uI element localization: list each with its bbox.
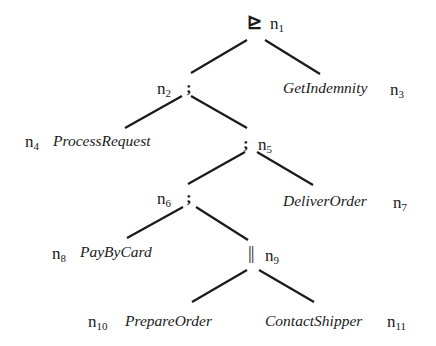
- tree-edges: [0, 0, 436, 346]
- edge-n1-n2: [191, 40, 247, 73]
- node-id-prefix: n: [52, 244, 61, 263]
- node-id-prefix: n: [387, 312, 396, 331]
- node-id-prefix: n: [258, 135, 267, 154]
- node-id-index: 7: [402, 201, 408, 213]
- node-id-index: 3: [399, 88, 405, 100]
- node-id-prefix: n: [25, 132, 34, 151]
- edge-n2-n4: [125, 96, 182, 128]
- activity-n10-prepare-order: PrepareOrder: [125, 313, 212, 329]
- node-id-prefix: n: [88, 312, 97, 331]
- activity-n4-process-request: ProcessRequest: [53, 133, 151, 149]
- node-id-index: 2: [166, 87, 172, 99]
- node-id-prefix: n: [157, 79, 166, 98]
- edge-n6-n8: [127, 207, 183, 238]
- process-tree-diagram: ⊵ n1 n2 ; GetIndemnity n3 n4 ProcessRequ…: [0, 0, 436, 346]
- operator-n5-sequence: ;: [243, 135, 249, 152]
- node-id-n4: n4: [25, 133, 39, 152]
- edge-n1-n3: [265, 40, 320, 74]
- node-id-n7: n7: [393, 194, 407, 213]
- edge-n9-n11: [259, 270, 314, 302]
- node-id-index: 8: [61, 252, 67, 264]
- node-id-index: 4: [34, 140, 40, 152]
- node-id-n11: n11: [387, 313, 406, 332]
- operator-n1-trigger: ⊵: [247, 13, 262, 31]
- edge-n6-n9: [196, 207, 248, 240]
- node-id-prefix: n: [270, 14, 279, 33]
- edge-n2-n5: [191, 96, 247, 128]
- node-id-index: 6: [166, 197, 172, 209]
- edge-n5-n6: [188, 152, 245, 184]
- node-id-index: 5: [267, 143, 273, 155]
- node-id-n6: n6: [157, 190, 171, 209]
- node-id-index: 10: [97, 320, 108, 332]
- edge-n9-n10: [192, 270, 247, 302]
- node-id-n3: n3: [390, 81, 404, 100]
- node-id-prefix: n: [265, 246, 274, 265]
- node-id-n9: n9: [265, 247, 279, 266]
- activity-n3-get-indemnity: GetIndemnity: [283, 80, 367, 96]
- node-id-n5: n5: [258, 136, 272, 155]
- activity-n8-pay-by-card: PayByCard: [80, 244, 152, 260]
- node-id-prefix: n: [393, 193, 402, 212]
- node-id-prefix: n: [390, 80, 399, 99]
- activity-n7-deliver-order: DeliverOrder: [283, 193, 367, 209]
- node-id-n10: n10: [88, 313, 108, 332]
- node-id-prefix: n: [157, 189, 166, 208]
- node-id-n2: n2: [157, 80, 171, 99]
- node-id-n1: n1: [270, 15, 284, 34]
- node-id-index: 11: [396, 320, 407, 332]
- operator-n9-parallel: ||: [248, 243, 254, 262]
- node-id-index: 9: [274, 254, 280, 266]
- node-id-index: 1: [279, 22, 285, 34]
- operator-n6-sequence: ;: [186, 189, 192, 206]
- operator-n2-sequence: ;: [186, 79, 192, 96]
- activity-n11-contact-shipper: ContactShipper: [265, 313, 362, 329]
- edge-n5-n7: [257, 152, 313, 185]
- node-id-n8: n8: [52, 245, 66, 264]
